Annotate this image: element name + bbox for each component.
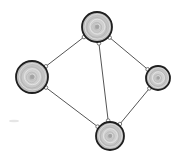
graph-diagram xyxy=(0,0,183,163)
node-core xyxy=(95,25,100,30)
edges-layer xyxy=(44,35,151,128)
node-core xyxy=(29,74,34,79)
edge-left-bottom xyxy=(44,86,99,129)
edge-line xyxy=(99,43,108,120)
edge-top-right xyxy=(108,36,150,71)
edge-right-bottom xyxy=(118,87,151,126)
edge-top-bottom xyxy=(97,42,110,123)
node-top[interactable] xyxy=(82,12,112,42)
edge-line xyxy=(110,38,148,70)
edge-top-left xyxy=(44,35,86,68)
nodes-layer xyxy=(16,12,170,150)
node-right[interactable] xyxy=(146,66,170,90)
edge-line xyxy=(46,88,98,127)
node-core xyxy=(108,134,112,138)
background-smudge xyxy=(9,120,19,122)
edge-line xyxy=(46,37,84,66)
node-left[interactable] xyxy=(16,61,48,93)
edge-line xyxy=(120,88,150,124)
node-core xyxy=(156,76,160,80)
node-bottom[interactable] xyxy=(96,122,124,150)
